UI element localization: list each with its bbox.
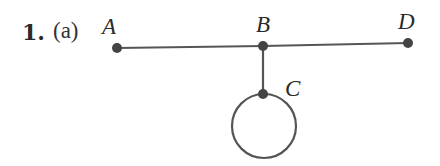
vertex-d [403,38,413,48]
edge-a-b [117,46,263,48]
vertex-label-c: C [285,76,300,102]
vertex-label-b: B [256,12,270,38]
vertex-b [258,41,268,51]
loop-at-c [232,94,296,158]
vertex-label-d: D [398,9,415,35]
vertex-label-a: A [102,14,116,40]
graph-diagram [0,0,440,166]
vertex-a [112,43,122,53]
edge-b-d [263,43,408,46]
vertex-c [258,89,268,99]
